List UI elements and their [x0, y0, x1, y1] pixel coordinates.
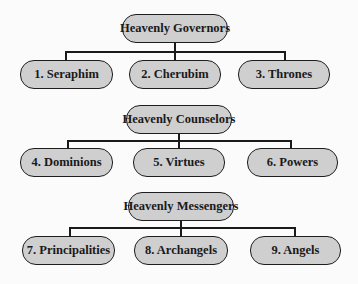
node-heavenly-governors: Heavenly Governors	[122, 14, 228, 43]
connector-seraphim	[65, 51, 67, 60]
node-powers: 6. Powers	[247, 148, 338, 177]
node-thrones: 3. Thrones	[238, 60, 330, 89]
node-principalities: 7. Principalities	[22, 236, 115, 265]
node-seraphim: 1. Seraphim	[20, 60, 113, 89]
connector-archangels	[180, 227, 182, 236]
node-archangels: 8. Archangels	[134, 236, 228, 265]
connector-thrones	[284, 51, 286, 60]
node-heavenly-counselors: Heavenly Counselors	[126, 105, 232, 134]
node-angels: 9. Angels	[250, 236, 341, 265]
node-virtues: 5. Virtues	[133, 148, 225, 177]
node-heavenly-messengers: Heavenly Messengers	[128, 192, 234, 221]
connector-horizontal-messengers	[69, 227, 296, 229]
connector-dominions	[67, 140, 69, 148]
connector-angels	[294, 227, 296, 236]
connector-principalities	[69, 227, 71, 236]
connector-cherubim	[174, 51, 176, 60]
connector-virtues	[178, 140, 180, 148]
node-dominions: 4. Dominions	[20, 148, 113, 177]
connector-powers	[290, 140, 292, 148]
node-cherubim: 2. Cherubim	[129, 60, 221, 89]
